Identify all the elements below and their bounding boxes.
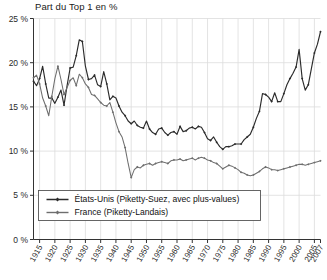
y-tick-label: 25 % — [9, 14, 29, 24]
chart-plot: 0 %5 %10 %15 %20 %25 % 19151920192519301… — [0, 0, 327, 280]
x-tick-label: 1965 — [181, 243, 198, 263]
y-tick-label: 20 % — [9, 58, 29, 68]
legend-item-etats-unis[interactable]: États-Unis (Piketty-Suez, avec plus-valu… — [47, 194, 240, 204]
y-tick-label: 5 % — [13, 190, 28, 200]
y-tick-label: 0 % — [13, 235, 28, 245]
x-axis: 1915192019251930193519401945195019551960… — [28, 240, 326, 264]
x-tick-label: 1960 — [165, 243, 182, 263]
x-tick-label: 2000 — [287, 243, 304, 263]
x-tick-label: 1990 — [257, 243, 274, 263]
x-tick-label: 1925 — [58, 243, 75, 263]
x-tick-label: 1930 — [74, 243, 91, 263]
x-tick-label: 1995 — [272, 243, 289, 263]
chart-legend: États-Unis (Piketty-Suez, avec plus-valu… — [39, 191, 261, 221]
y-axis: 0 %5 %10 %15 %20 %25 % — [9, 14, 34, 245]
legend-label: États-Unis (Piketty-Suez, avec plus-valu… — [75, 194, 240, 204]
x-tick-label: 1945 — [119, 243, 136, 263]
x-tick-label: 1980 — [226, 243, 243, 263]
x-tick-label: 1985 — [242, 243, 259, 263]
y-tick-label: 10 % — [9, 146, 29, 156]
x-tick-label: 1920 — [43, 243, 60, 263]
chart-container: Part du Top 1 en % 0 %5 %10 %15 %20 %25 … — [0, 0, 327, 280]
x-tick-label: 1940 — [104, 243, 121, 263]
y-tick-label: 15 % — [9, 102, 29, 112]
x-tick-label: 1950 — [135, 243, 152, 263]
x-tick-label: 1935 — [89, 243, 106, 263]
x-tick-label: 1955 — [150, 243, 167, 263]
x-tick-label: 1975 — [211, 243, 228, 263]
legend-label: France (Piketty-Landais) — [75, 207, 169, 217]
x-tick-label: 1970 — [196, 243, 213, 263]
x-tick-label: 1915 — [28, 243, 45, 263]
